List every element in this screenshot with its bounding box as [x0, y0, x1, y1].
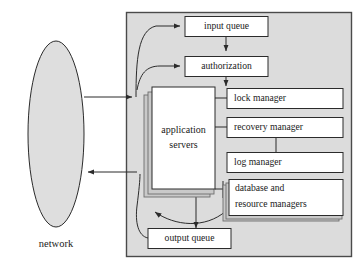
- network-label: network: [39, 238, 74, 249]
- application-servers-label-line2: servers: [169, 139, 197, 150]
- input-queue-label: input queue: [204, 20, 249, 31]
- output-queue-label: output queue: [165, 232, 215, 243]
- lock-manager-label: lock manager: [234, 92, 287, 103]
- recovery-manager-label: recovery manager: [234, 121, 304, 132]
- network-ellipse: [28, 41, 84, 227]
- architecture-diagram-svg: network application servers: [0, 0, 364, 273]
- diagram-canvas: network application servers: [0, 0, 364, 273]
- application-servers-box[interactable]: [152, 87, 215, 189]
- database-resource-managers-label-line1: database and: [235, 182, 284, 193]
- authorization-label: authorization: [201, 60, 252, 71]
- log-manager-label: log manager: [234, 156, 282, 167]
- database-resource-managers-label-line2: resource managers: [235, 198, 307, 209]
- application-servers-label-line1: application: [161, 124, 205, 135]
